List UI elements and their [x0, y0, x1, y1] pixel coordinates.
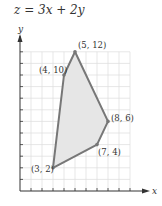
- vertex-label: (7, 4): [98, 147, 121, 157]
- vertex-point: [73, 50, 77, 54]
- vertex-label: (3, 2): [31, 164, 54, 174]
- y-axis-label: y: [17, 24, 24, 34]
- x-axis-label: x: [152, 186, 157, 196]
- chart: xy(3, 2)(4, 10)(5, 12)(8, 6)(7, 4): [0, 0, 162, 206]
- y-axis-arrow-icon: [18, 34, 23, 42]
- vertex-point: [106, 120, 110, 124]
- vertex-label: (5, 12): [78, 40, 106, 50]
- vertex-label: (4, 10): [39, 65, 67, 75]
- vertex-label: (8, 6): [111, 113, 134, 123]
- x-axis-arrow-icon: [142, 189, 150, 194]
